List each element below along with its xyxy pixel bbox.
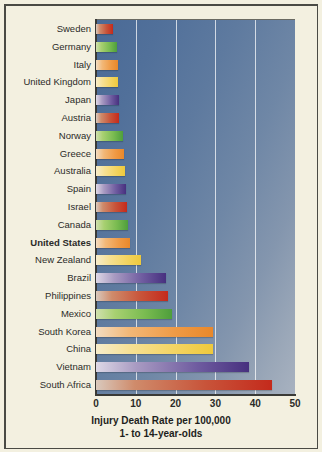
frame-border-bottom (4, 448, 318, 450)
category-label-vietnam: Vietnam (56, 362, 91, 372)
bar-japan (96, 95, 119, 105)
category-label-germany: Germany (52, 42, 91, 52)
bar-mexico (96, 309, 172, 319)
bar-israel (96, 202, 127, 212)
bar-row (96, 42, 295, 52)
bar-sweden (96, 24, 113, 34)
bar-united-states (96, 238, 130, 248)
bar-row (96, 202, 295, 212)
category-label-new-zealand: New Zealand (35, 255, 91, 265)
x-axis-title-line2: 1- to 14-year-olds (0, 427, 322, 440)
x-tick-0: 0 (81, 398, 111, 409)
category-label-italy: Italy (74, 60, 91, 70)
bar-row (96, 238, 295, 248)
bar-brazil (96, 273, 166, 283)
bar-row (96, 131, 295, 141)
bar-united-kingdom (96, 77, 118, 87)
category-label-sweden: Sweden (57, 24, 91, 34)
bar-italy (96, 60, 118, 70)
bar-greece (96, 149, 124, 159)
category-label-philippines: Philippines (45, 291, 91, 301)
bar-austria (96, 113, 119, 123)
bar-germany (96, 42, 117, 52)
category-label-mexico: Mexico (61, 309, 91, 319)
bar-row (96, 184, 295, 194)
category-label-united-states: United States (30, 238, 91, 248)
bar-south-korea (96, 327, 213, 337)
category-label-south-korea: South Korea (38, 327, 91, 337)
bar-philippines (96, 291, 168, 301)
x-axis-title-line1: Injury Death Rate per 100,000 (91, 415, 231, 426)
bar-row (96, 309, 295, 319)
bar-row (96, 24, 295, 34)
x-axis-line (95, 394, 296, 396)
x-tick-30: 30 (200, 398, 230, 409)
category-label-china: China (66, 344, 91, 354)
category-label-greece: Greece (60, 149, 91, 159)
x-axis-title: Injury Death Rate per 100,000 1- to 14-y… (0, 414, 322, 440)
category-label-united-kingdom: United Kingdom (23, 77, 91, 87)
bar-row (96, 77, 295, 87)
category-label-south-africa: South Africa (40, 380, 91, 390)
bar-new-zealand (96, 255, 141, 265)
x-tick-10: 10 (121, 398, 151, 409)
x-tick-20: 20 (161, 398, 191, 409)
bar-row (96, 380, 295, 390)
x-tick-40: 40 (240, 398, 270, 409)
category-label-israel: Israel (68, 202, 91, 212)
frame-border-right (317, 4, 319, 449)
frame-border-left (4, 4, 6, 449)
category-label-australia: Australia (54, 166, 91, 176)
bar-row (96, 220, 295, 230)
chart-figure: SwedenGermanyItalyUnited KingdomJapanAus… (0, 0, 322, 452)
bar-row (96, 166, 295, 176)
bar-china (96, 344, 213, 354)
category-label-japan: Japan (65, 95, 91, 105)
frame-border-top (4, 4, 318, 6)
bar-row (96, 95, 295, 105)
bar-row (96, 149, 295, 159)
bar-south-africa (96, 380, 272, 390)
bar-canada (96, 220, 128, 230)
category-label-canada: Canada (58, 220, 91, 230)
category-label-norway: Norway (59, 131, 91, 141)
bar-row (96, 291, 295, 301)
category-label-brazil: Brazil (67, 273, 91, 283)
bar-australia (96, 166, 125, 176)
bar-row (96, 60, 295, 70)
bar-vietnam (96, 362, 249, 372)
bar-row (96, 255, 295, 265)
bar-row (96, 344, 295, 354)
category-label-spain: Spain (67, 184, 91, 194)
category-label-austria: Austria (61, 113, 91, 123)
bar-spain (96, 184, 126, 194)
bar-row (96, 273, 295, 283)
bar-norway (96, 131, 123, 141)
bar-row (96, 113, 295, 123)
bar-row (96, 327, 295, 337)
x-tick-50: 50 (280, 398, 310, 409)
bar-row (96, 362, 295, 372)
